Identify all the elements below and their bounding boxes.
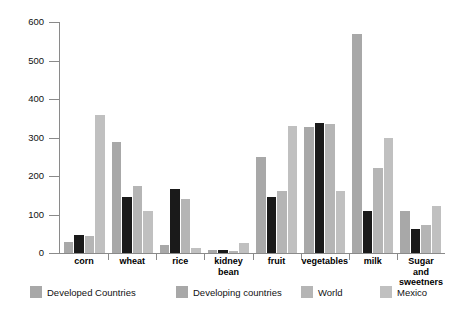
bar-vegetables-developed-countries [304, 127, 314, 253]
x-axis-line [59, 253, 445, 254]
bar-sugar-and-sweetners-developed-countries [400, 211, 410, 253]
category-label-sugar-and-sweetners: Sugarandsweetners [391, 256, 449, 288]
category-label-line: and [391, 267, 449, 278]
y-tick-100 [49, 215, 60, 216]
bar-chart: 6005004003002001000 cornwheatricekidneyb… [0, 0, 449, 314]
bar-vegetables-mexico [336, 191, 346, 253]
bar-kidney-bean-world [229, 251, 239, 253]
bar-kidney-bean-mexico [239, 243, 249, 253]
y-tick-label-0: 0 [0, 248, 44, 257]
y-tick-label-300: 300 [0, 133, 44, 142]
category-label-line: bean [198, 267, 258, 278]
y-tick-200 [49, 176, 60, 177]
y-tick-label-100: 100 [0, 210, 44, 219]
bar-kidney-bean-developing-countries [218, 250, 228, 253]
y-tick-label-500: 500 [0, 56, 44, 65]
category-label-line: Sugar [391, 256, 449, 267]
legend-label: World [318, 287, 343, 298]
bar-sugar-and-sweetners-developing-countries [411, 229, 421, 253]
bar-wheat-world [133, 186, 143, 253]
y-tick-300 [49, 138, 60, 139]
bar-fruit-developed-countries [256, 157, 266, 253]
bar-fruit-mexico [288, 126, 298, 253]
legend-label: Mexico [397, 287, 427, 298]
legend-swatch-icon [301, 286, 313, 298]
bar-vegetables-world [325, 124, 335, 253]
y-tick-400 [49, 99, 60, 100]
bar-rice-world [181, 199, 191, 253]
y-axis-labels: 6005004003002001000 [0, 0, 46, 314]
bar-milk-mexico [384, 138, 394, 254]
y-tick-600 [49, 22, 60, 23]
bar-corn-world [85, 236, 95, 253]
bar-corn-mexico [95, 115, 105, 253]
bar-milk-developed-countries [352, 34, 362, 253]
bar-sugar-and-sweetners-mexico [432, 206, 442, 253]
bar-corn-developed-countries [64, 242, 74, 253]
bar-wheat-developed-countries [112, 142, 122, 253]
y-tick-0 [49, 253, 60, 254]
y-tick-label-400: 400 [0, 94, 44, 103]
bar-vegetables-developing-countries [315, 123, 325, 253]
legend-swatch-icon [176, 286, 188, 298]
legend-swatch-icon [380, 286, 392, 298]
bar-rice-developed-countries [160, 245, 170, 253]
bar-milk-world [373, 168, 383, 253]
bar-kidney-bean-developed-countries [208, 250, 218, 253]
bar-rice-mexico [191, 248, 201, 253]
y-tick-500 [49, 61, 60, 62]
y-tick-label-600: 600 [0, 17, 44, 26]
chart-legend: Developed CountriesDeveloping countriesW… [0, 285, 449, 307]
y-tick-label-200: 200 [0, 171, 44, 180]
bar-fruit-world [277, 191, 287, 253]
bar-rice-developing-countries [170, 189, 180, 253]
bar-fruit-developing-countries [267, 197, 277, 253]
legend-swatch-icon [30, 286, 42, 298]
legend-label: Developing countries [193, 287, 282, 298]
bar-sugar-and-sweetners-world [421, 225, 431, 253]
bar-corn-developing-countries [74, 235, 84, 253]
legend-label: Developed Countries [47, 287, 136, 298]
bar-wheat-developing-countries [122, 197, 132, 253]
bar-milk-developing-countries [363, 211, 373, 253]
bar-wheat-mexico [143, 211, 153, 253]
